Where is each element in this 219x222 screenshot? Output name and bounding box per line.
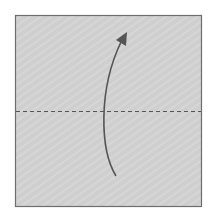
origami-diagram xyxy=(0,0,219,222)
